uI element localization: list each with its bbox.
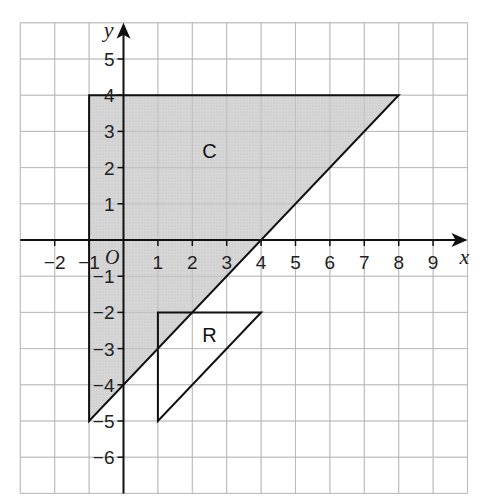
y-tick-label: −2 [93, 302, 115, 323]
shape-label-r: R [202, 324, 216, 346]
x-tick-label: 5 [290, 252, 301, 273]
y-tick-label: 5 [104, 49, 115, 70]
y-axis-label: y [102, 17, 114, 42]
x-tick-label: 7 [359, 252, 370, 273]
x-tick-label: 3 [221, 252, 232, 273]
y-tick-label: −3 [93, 339, 115, 360]
x-axis-label: x [459, 244, 470, 269]
y-tick-label: −4 [93, 375, 115, 396]
y-tick-label: 2 [104, 158, 115, 179]
x-tick-label: 1 [153, 252, 164, 273]
x-tick-label: 9 [428, 252, 439, 273]
y-tick-label: 1 [104, 194, 115, 215]
x-tick-label: −2 [44, 252, 66, 273]
x-tick-label: 8 [393, 252, 404, 273]
origin-label: O [105, 246, 119, 268]
y-tick-label: 4 [104, 85, 115, 106]
x-tick-label: 2 [187, 252, 198, 273]
grid-svg: CR−2−112345678954321−1−2−3−4−5−6Oxy [0, 0, 480, 504]
y-tick-label: −6 [93, 447, 115, 468]
x-tick-label: 4 [256, 252, 267, 273]
y-tick-label: 3 [104, 121, 115, 142]
y-tick-label: −1 [93, 266, 115, 287]
x-tick-label: 6 [325, 252, 336, 273]
shape-label-c: C [202, 140, 216, 162]
y-tick-label: −5 [93, 411, 115, 432]
coordinate-grid-diagram: CR−2−112345678954321−1−2−3−4−5−6Oxy [0, 0, 480, 504]
